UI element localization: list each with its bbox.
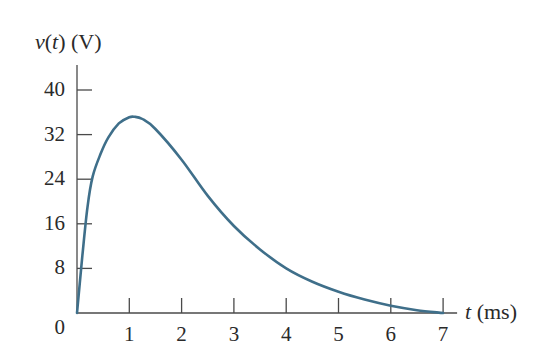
x-axis-label: t (ms) — [465, 299, 517, 325]
y-axis-label-var: v — [35, 29, 45, 54]
y-axis-label-arg: t — [52, 29, 58, 54]
y-tick-label: 40 — [25, 77, 65, 102]
x-axis-label-unit: (ms) — [477, 299, 517, 324]
x-tick-label: 6 — [381, 322, 401, 347]
y-tick-label: 0 — [25, 315, 65, 340]
x-tick-label: 1 — [119, 322, 139, 347]
x-axis-label-var: t — [465, 299, 471, 324]
x-tick-label: 7 — [433, 322, 453, 347]
x-tick-label: 3 — [224, 322, 244, 347]
y-axis-label-unit: (V) — [71, 29, 102, 54]
y-axis-label: v(t) (V) — [35, 29, 102, 55]
x-tick-label: 5 — [329, 322, 349, 347]
x-tick-label: 2 — [172, 322, 192, 347]
axes — [77, 65, 457, 313]
y-tick-label: 32 — [25, 122, 65, 147]
y-tick-label: 24 — [25, 166, 65, 191]
voltage-curve — [77, 117, 443, 313]
x-tick-label: 4 — [276, 322, 296, 347]
y-tick-label: 16 — [25, 211, 65, 236]
y-tick-label: 8 — [25, 255, 65, 280]
